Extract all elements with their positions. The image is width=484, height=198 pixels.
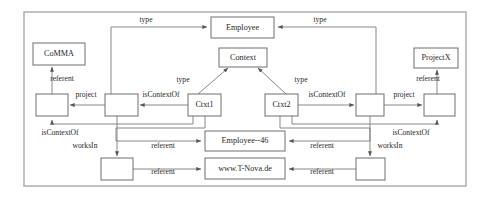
node-label-employee: Employee [226, 23, 260, 32]
node-box-blank-r2 [424, 94, 455, 116]
node-blank-r2[interactable] [424, 94, 455, 116]
diagram-canvas: CoMMAEmployeeContextProjectXCtxt1Ctxt2Em… [0, 0, 484, 198]
node-box-blank-r1 [356, 94, 384, 116]
node-label-comma: CoMMA [44, 49, 74, 58]
edge-label-iscontextof-right: isContextOf [308, 90, 346, 99]
rdf-context-diagram: CoMMAEmployeeContextProjectXCtxt1Ctxt2Em… [0, 0, 484, 198]
edge-label-type-top-left: type [139, 15, 153, 24]
node-label-ctxt2: Ctxt2 [272, 100, 290, 109]
edge-label-iscontextof-left: isContextOf [142, 90, 180, 99]
edge-label-type-top-right: type [313, 15, 327, 24]
edge-e-ctxt1-lower-left [52, 116, 193, 124]
edge-e-ctxt2-lower-right [292, 116, 437, 124]
edge-e-ctxt2-emp46 [280, 116, 370, 141]
node-label-employee46: Employee--46 [222, 136, 269, 145]
node-ctxt1[interactable]: Ctxt1 [188, 94, 221, 116]
edge-label-project-left: project [75, 90, 97, 99]
node-box-blank-l1 [36, 94, 68, 116]
edge-e-ctxt1-emp46 [116, 116, 205, 141]
edge-label-worksin-left: worksIn [73, 141, 98, 150]
edge-e-ctxt1-type-context [198, 68, 228, 94]
edge-label-iscontextof-lower-l: isContextOf [41, 128, 79, 137]
edge-label-referent-tnova-left: referent [151, 167, 175, 176]
node-employee[interactable]: Employee [211, 17, 274, 38]
node-box-blank-br [356, 158, 385, 180]
edge-label-type-ctxt1: type [176, 75, 190, 84]
edge-label-referent-emp46-right: referent [310, 141, 334, 150]
node-label-ctxt1: Ctxt1 [195, 100, 213, 109]
node-ctxt2[interactable]: Ctxt2 [265, 94, 298, 116]
node-employee46[interactable]: Employee--46 [205, 131, 285, 151]
edge-label-referent-emp46-left: referent [151, 141, 175, 150]
node-projectx[interactable]: ProjectX [414, 48, 458, 68]
edge-label-referent-projectx: referent [416, 74, 440, 83]
node-blank-r1[interactable] [356, 94, 384, 116]
node-blank-l1[interactable] [36, 94, 68, 116]
edge-e-ctxt2-type-context [258, 68, 286, 94]
edge-label-type-ctxt2: type [294, 75, 308, 84]
node-tnova[interactable]: www.T-Nova.de [205, 158, 285, 179]
node-blank-bl[interactable] [101, 158, 133, 180]
node-blank-br[interactable] [356, 158, 385, 180]
node-label-projectx: ProjectX [421, 53, 450, 62]
node-context[interactable]: Context [219, 48, 267, 67]
node-label-context: Context [230, 53, 257, 62]
node-blank-l2[interactable] [105, 94, 138, 116]
node-label-tnova: www.T-Nova.de [218, 164, 272, 173]
edge-label-project-right: project [393, 90, 415, 99]
node-comma[interactable]: CoMMA [33, 43, 85, 65]
node-box-blank-bl [101, 158, 133, 180]
edge-label-referent-comma: referent [50, 74, 74, 83]
edge-label-worksin-right: worksIn [378, 141, 403, 150]
edge-label-iscontextof-lower-r: isContextOf [392, 128, 430, 137]
node-box-blank-l2 [105, 94, 138, 116]
edge-label-referent-tnova-right: referent [310, 167, 334, 176]
